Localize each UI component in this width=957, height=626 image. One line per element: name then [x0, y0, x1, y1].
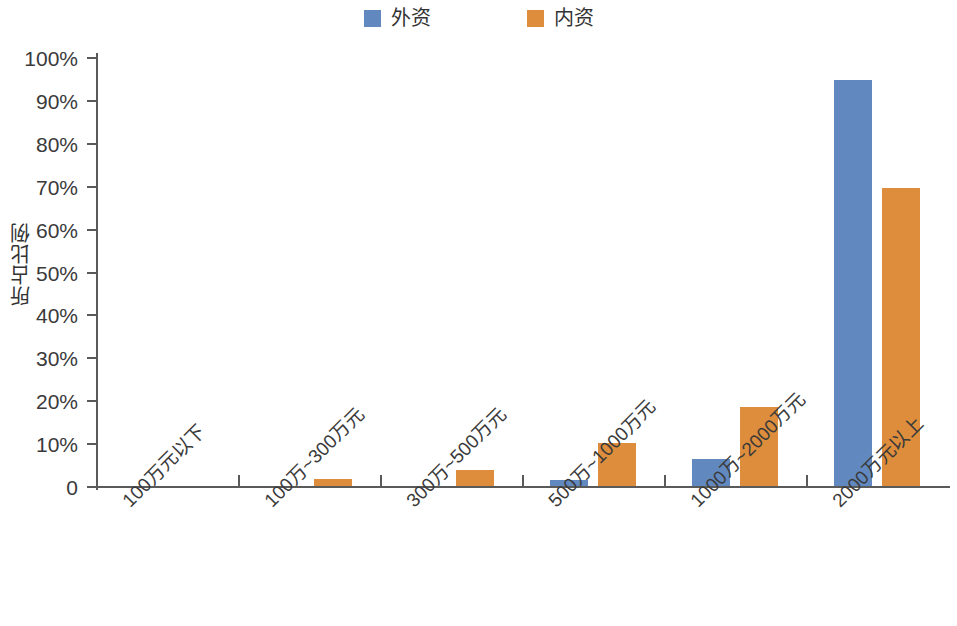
- y-tick-label-0: 0: [66, 477, 78, 498]
- bar-group-0: [96, 57, 238, 486]
- bar-2-1[interactable]: [456, 470, 494, 486]
- y-tick-0: 0: [87, 486, 96, 488]
- bar-chart: 外资 内资 所占比例 100%90%80%70%60%50%40%30%20%1…: [0, 0, 957, 626]
- y-tick-label-100: 100%: [24, 48, 78, 69]
- chart-legend: 外资 内资: [0, 8, 957, 28]
- legend-entry-1: 内资: [527, 8, 594, 28]
- legend-label-0: 外资: [391, 8, 431, 28]
- y-tick-label-20: 20%: [36, 391, 78, 412]
- plot-area: 100%90%80%70%60%50%40%30%20%10%0: [96, 57, 948, 486]
- legend-swatch-icon-0: [364, 10, 381, 27]
- y-tick-label-30: 30%: [36, 348, 78, 369]
- y-tick-100: 100%: [87, 57, 96, 59]
- legend-swatch-icon-1: [527, 10, 544, 27]
- y-tick-40: 40%: [87, 314, 96, 316]
- legend-label-1: 内资: [554, 8, 594, 28]
- y-tick-label-70: 70%: [36, 176, 78, 197]
- legend-entry-0: 外资: [364, 8, 431, 28]
- bar-group-5: [806, 57, 948, 486]
- y-tick-90: 90%: [87, 100, 96, 102]
- y-tick-10: 10%: [87, 443, 96, 445]
- y-tick-50: 50%: [87, 272, 96, 274]
- y-axis-title: 所占比例: [6, 222, 35, 306]
- y-tick-label-50: 50%: [36, 262, 78, 283]
- y-tick-70: 70%: [87, 186, 96, 188]
- y-tick-label-90: 90%: [36, 90, 78, 111]
- y-tick-80: 80%: [87, 143, 96, 145]
- bar-1-1[interactable]: [314, 479, 352, 486]
- y-tick-label-10: 10%: [36, 434, 78, 455]
- y-tick-30: 30%: [87, 357, 96, 359]
- y-tick-label-80: 80%: [36, 133, 78, 154]
- y-tick-label-40: 40%: [36, 305, 78, 326]
- y-tick-20: 20%: [87, 400, 96, 402]
- bar-5-0[interactable]: [834, 80, 872, 486]
- y-tick-label-60: 60%: [36, 219, 78, 240]
- y-tick-60: 60%: [87, 229, 96, 231]
